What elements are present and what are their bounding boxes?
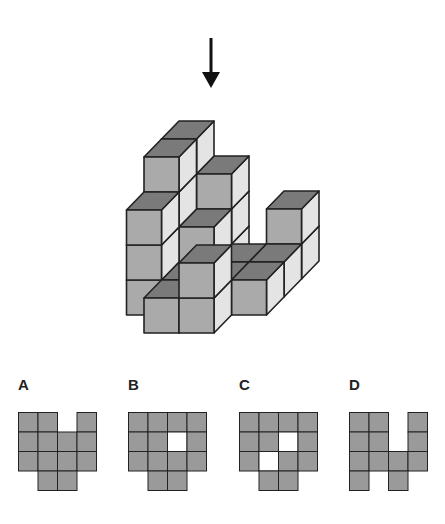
grid-cell-filled xyxy=(38,413,58,433)
grid-cell-filled xyxy=(389,452,409,472)
grid-cell-filled xyxy=(240,413,260,433)
grid-cell-filled xyxy=(168,471,188,491)
grid-cell-empty xyxy=(279,432,299,452)
grid-cell-filled xyxy=(19,452,39,472)
grid-cell-filled xyxy=(298,413,318,433)
grid-cell-filled xyxy=(19,413,39,433)
grid-cell-filled xyxy=(279,452,299,472)
grid-cell-filled xyxy=(77,432,97,452)
grid-cell-filled xyxy=(129,432,149,452)
cube-front-face xyxy=(144,157,179,192)
cube-front-face xyxy=(144,298,179,333)
grid-cell-filled xyxy=(408,452,428,472)
option-grid xyxy=(128,412,208,492)
grid-cell-filled xyxy=(369,413,389,433)
grid-cell-filled xyxy=(129,452,149,472)
grid-cell-filled xyxy=(187,452,207,472)
grid-cell-filled xyxy=(350,432,370,452)
grid-cell-filled xyxy=(168,413,188,433)
grid-cell-filled xyxy=(148,432,168,452)
cube-front-face xyxy=(179,298,214,333)
grid-cell-filled xyxy=(298,452,318,472)
grid-cell-filled xyxy=(38,452,58,472)
grid-cell-filled xyxy=(259,413,279,433)
grid-cell-filled xyxy=(38,471,58,491)
option-label: B xyxy=(128,376,139,393)
grid-cell-filled xyxy=(298,432,318,452)
grid-cell-filled xyxy=(389,471,409,491)
down-arrow-icon xyxy=(202,38,220,88)
cube-front-face xyxy=(232,280,267,315)
option-a[interactable]: A xyxy=(18,376,118,516)
cube-front-face xyxy=(127,210,162,245)
cube-front-face xyxy=(267,209,302,244)
option-label: D xyxy=(349,376,360,393)
option-c[interactable]: C xyxy=(239,376,339,516)
grid-cell-filled xyxy=(148,452,168,472)
grid-cell-filled xyxy=(350,452,370,472)
cube-front-face xyxy=(127,245,162,280)
grid-cell-filled xyxy=(408,413,428,433)
option-d[interactable]: D xyxy=(349,376,445,516)
grid-cell-filled xyxy=(58,471,78,491)
grid-cell-filled xyxy=(168,452,188,472)
option-label: C xyxy=(239,376,250,393)
grid-cell-filled xyxy=(148,413,168,433)
grid-cell-filled xyxy=(38,432,58,452)
grid-cell-empty xyxy=(259,452,279,472)
grid-cell-filled xyxy=(259,471,279,491)
grid-cell-filled xyxy=(408,432,428,452)
cube-stack xyxy=(127,121,320,333)
option-grid xyxy=(18,412,98,492)
grid-cell-filled xyxy=(58,432,78,452)
grid-cell-filled xyxy=(240,452,260,472)
option-grid xyxy=(239,412,319,492)
grid-cell-filled xyxy=(240,432,260,452)
grid-cell-filled xyxy=(77,452,97,472)
grid-cell-filled xyxy=(369,452,389,472)
grid-cell-filled xyxy=(369,432,389,452)
grid-cell-filled xyxy=(279,471,299,491)
isometric-cube-figure xyxy=(0,0,445,370)
grid-cell-filled xyxy=(58,452,78,472)
grid-cell-filled xyxy=(279,413,299,433)
grid-cell-filled xyxy=(350,413,370,433)
grid-cell-filled xyxy=(187,413,207,433)
cube-front-face xyxy=(197,174,232,209)
option-label: A xyxy=(18,376,29,393)
option-b[interactable]: B xyxy=(128,376,228,516)
grid-cell-filled xyxy=(148,471,168,491)
cube-front-face xyxy=(179,263,214,298)
grid-cell-empty xyxy=(168,432,188,452)
option-grid xyxy=(349,412,429,492)
grid-cell-filled xyxy=(129,413,149,433)
grid-cell-filled xyxy=(259,432,279,452)
grid-cell-filled xyxy=(350,471,370,491)
grid-cell-filled xyxy=(19,432,39,452)
grid-cell-filled xyxy=(187,432,207,452)
grid-cell-filled xyxy=(77,413,97,433)
